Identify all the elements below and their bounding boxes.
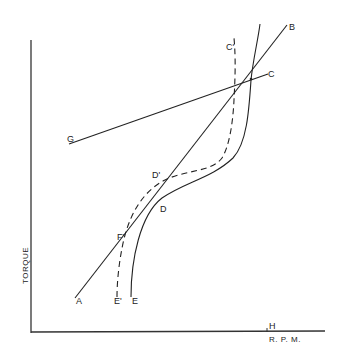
- x-axis: [31, 331, 325, 332]
- torque-rpm-diagram: TORQUE R. P. M. H A B G C E D E' F' D' C…: [0, 0, 338, 358]
- x-axis-label: R. P. M.: [269, 335, 301, 344]
- line-a-b: [75, 25, 287, 298]
- label-G: G: [67, 134, 74, 144]
- label-D: D: [160, 204, 167, 214]
- label-E-prime: E': [114, 296, 122, 306]
- label-A: A: [76, 296, 82, 306]
- line-g-c: [69, 74, 268, 144]
- label-H: H: [269, 321, 276, 331]
- label-F-prime: F': [117, 232, 124, 242]
- y-axis-label: TORQUE: [21, 247, 30, 284]
- intersection-point: [250, 78, 253, 81]
- label-B: B: [289, 22, 295, 32]
- curve-e-d: [131, 24, 260, 297]
- label-E: E: [132, 296, 138, 306]
- label-D-prime: D': [152, 170, 160, 180]
- label-C-prime: C': [226, 42, 234, 52]
- label-C: C: [268, 69, 275, 79]
